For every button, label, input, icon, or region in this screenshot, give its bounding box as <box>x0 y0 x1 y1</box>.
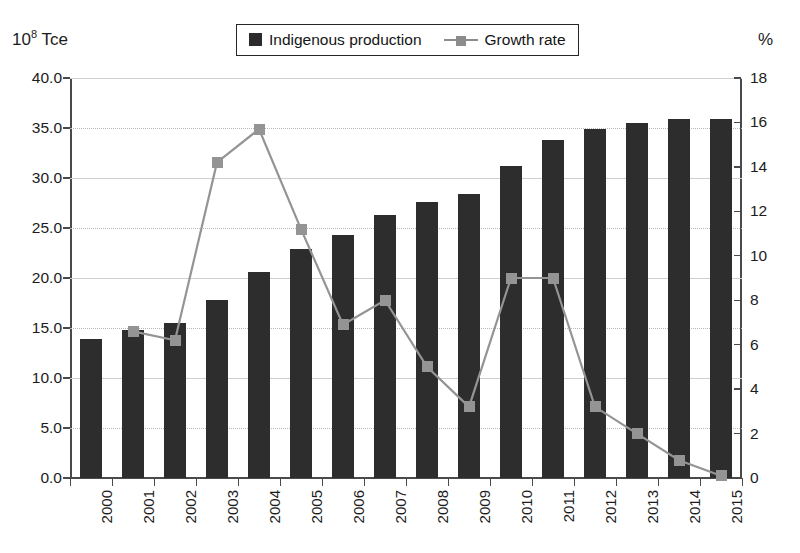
y-axis-left-tick-label: 30.0 <box>6 170 62 186</box>
x-axis-tick <box>364 478 365 486</box>
marker-2007 <box>380 295 391 306</box>
line-with-square-marker-icon <box>444 33 478 46</box>
marker-2009 <box>464 401 475 412</box>
x-axis-label-2002: 2002 <box>182 490 199 523</box>
marker-2008 <box>422 361 433 372</box>
bar-2003 <box>206 300 228 478</box>
x-axis-tick <box>154 478 155 486</box>
bar-2002 <box>164 323 186 478</box>
x-axis-label-2014: 2014 <box>686 490 703 523</box>
x-axis-label-2012: 2012 <box>602 490 619 523</box>
bar-2006 <box>332 235 354 478</box>
marker-2011 <box>548 273 559 284</box>
x-axis-label-2013: 2013 <box>644 490 661 523</box>
y-axis-left-tick <box>63 427 70 428</box>
y-axis-left-tick-label: 35.0 <box>6 120 62 136</box>
plot-area: 0.05.010.015.020.025.030.035.040.0 02468… <box>70 78 742 478</box>
y-axis-right-tick <box>734 477 741 478</box>
x-axis-label-2003: 2003 <box>224 490 241 523</box>
y-axis-right-tick-label: 12 <box>750 203 790 219</box>
y-axis-right-tick-label: 8 <box>750 292 790 308</box>
marker-2002 <box>170 335 181 346</box>
left-axis-unit-base: 10 <box>12 30 31 49</box>
y-axis-left-tick <box>63 77 70 78</box>
legend-entry-growth-rate: Growth rate <box>444 31 566 49</box>
y-axis-left-tick <box>63 127 70 128</box>
y-axis-left-tick <box>63 327 70 328</box>
marker-2003 <box>212 157 223 168</box>
legend-label-indigenous-production: Indigenous production <box>269 31 422 49</box>
marker-2014 <box>674 455 685 466</box>
x-axis-label-2010: 2010 <box>518 490 535 523</box>
bar-2004 <box>248 272 270 478</box>
y-axis-right-tick-label: 14 <box>750 159 790 175</box>
bar-2005 <box>290 249 312 478</box>
x-axis-tick <box>658 478 659 486</box>
bar-2010 <box>500 166 522 478</box>
y-axis-left-tick <box>63 477 70 478</box>
x-axis-label-2007: 2007 <box>392 490 409 523</box>
y-axis-right-tick <box>734 433 741 434</box>
y-axis-right-tick-label: 2 <box>750 426 790 442</box>
y-axis-left-tick-label: 15.0 <box>6 320 62 336</box>
x-axis-tick <box>490 478 491 486</box>
x-axis-tick <box>280 478 281 486</box>
bar-2001 <box>122 330 144 478</box>
x-axis-label-2008: 2008 <box>434 490 451 523</box>
x-axis-tick <box>742 478 743 486</box>
chart-legend: Indigenous production Growth rate <box>236 24 579 56</box>
y-axis-right-tick <box>734 211 741 212</box>
x-axis-label-2005: 2005 <box>308 490 325 523</box>
y-axis-left-tick <box>63 377 70 378</box>
y-axis-right-tick-label: 0 <box>750 470 790 486</box>
y-axis-right-tick <box>734 300 741 301</box>
x-axis-label-2009: 2009 <box>476 490 493 523</box>
marker-2013 <box>632 428 643 439</box>
y-axis-right-tick <box>734 166 741 167</box>
y-axis-left-tick <box>63 177 70 178</box>
marker-2010 <box>506 273 517 284</box>
y-axis-left-tick-label: 40.0 <box>6 70 62 86</box>
legend-label-growth-rate: Growth rate <box>485 31 566 49</box>
x-axis-tick <box>112 478 113 486</box>
left-axis-unit-suffix: Tce <box>37 30 68 49</box>
y-axis-left-tick-label: 0.0 <box>6 470 62 486</box>
y-axis-right-tick <box>734 344 741 345</box>
y-axis-right-tick-label: 16 <box>750 114 790 130</box>
x-axis-tick <box>322 478 323 486</box>
y-axis-left-tick-label: 20.0 <box>6 270 62 286</box>
x-axis-tick <box>574 478 575 486</box>
y-axis-right-tick <box>734 122 741 123</box>
y-axis-right-tick-label: 4 <box>750 381 790 397</box>
y-axis-right-tick-label: 18 <box>750 70 790 86</box>
x-axis-tick <box>448 478 449 486</box>
chart-root: 108 Tce % Indigenous production Growth r… <box>0 0 800 553</box>
bar-2009 <box>458 194 480 478</box>
gridline <box>70 78 742 80</box>
filled-square-icon <box>249 33 262 46</box>
bar-2015 <box>710 119 732 478</box>
x-axis-tick <box>196 478 197 486</box>
y-axis-right-tick <box>734 77 741 78</box>
x-axis-label-2000: 2000 <box>98 490 115 523</box>
y-axis-left-tick-label: 10.0 <box>6 370 62 386</box>
marker-2015 <box>716 470 727 481</box>
x-axis-label-2011: 2011 <box>560 490 577 522</box>
bar-2000 <box>80 339 102 478</box>
legend-entry-indigenous-production: Indigenous production <box>249 31 422 49</box>
x-axis-label-2001: 2001 <box>140 490 157 523</box>
x-axis-label-2015: 2015 <box>728 490 745 523</box>
y-axis-right-tick-label: 6 <box>750 337 790 353</box>
marker-2001 <box>128 326 139 337</box>
y-axis-right-tick-label: 10 <box>750 248 790 264</box>
x-axis-tick <box>616 478 617 486</box>
y-axis-left-tick-label: 5.0 <box>6 420 62 436</box>
bar-2008 <box>416 202 438 478</box>
y-axis-left-tick <box>63 227 70 228</box>
y-axis-left-tick <box>63 277 70 278</box>
bar-2013 <box>626 123 648 478</box>
x-axis-tick <box>238 478 239 486</box>
x-axis-tick <box>70 478 71 486</box>
x-axis-tick <box>406 478 407 486</box>
y-axis-right-tick <box>734 388 741 389</box>
